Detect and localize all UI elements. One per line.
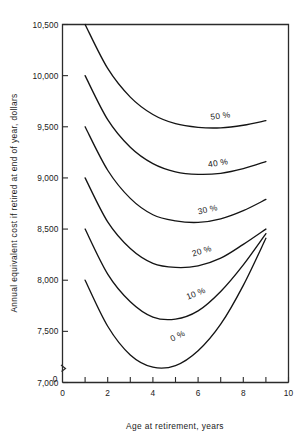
figure-container: 7,0007,5008,0008,5009,0009,50010,00010,5… <box>0 0 306 440</box>
y-tick-label: 8,500 <box>37 224 59 234</box>
axis-break-zero-label: 0 <box>53 374 58 384</box>
y-tick-label: 9,000 <box>37 173 59 183</box>
x-tick-label: 10 <box>284 388 294 398</box>
x-tick-label: 6 <box>196 388 201 398</box>
x-tick-label: 4 <box>151 388 156 398</box>
x-tick-label: 2 <box>105 388 110 398</box>
chart-background <box>0 0 306 440</box>
x-axis-title: Age at retirement, years <box>126 421 224 431</box>
x-tick-label: 8 <box>241 388 246 398</box>
y-tick-label: 8,000 <box>37 275 59 285</box>
y-tick-label: 10,500 <box>33 20 59 30</box>
y-tick-label: 7,500 <box>37 326 59 336</box>
x-tick-label: 0 <box>60 388 65 398</box>
y-axis-title: Annual equivalent cost if retired at end… <box>9 93 19 312</box>
annual-equivalent-cost-chart: 7,0007,5008,0008,5009,0009,50010,00010,5… <box>0 0 306 440</box>
y-tick-label: 9,500 <box>37 122 59 132</box>
y-tick-label: 10,000 <box>33 71 59 81</box>
